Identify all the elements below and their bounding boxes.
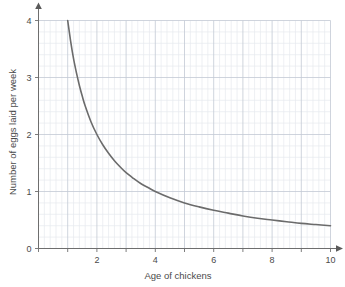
eggs-vs-age-line-chart: 246810 01234 Age of chickens Number of e…: [0, 0, 345, 287]
x-tick-label: 4: [153, 255, 158, 265]
y-axis-title: Number of eggs laid per week: [7, 69, 18, 195]
x-tick-label: 2: [94, 255, 99, 265]
x-tick-label: 8: [270, 255, 275, 265]
y-tick-label: 4: [26, 16, 31, 26]
y-tick-label: 2: [26, 130, 31, 140]
x-tick-label: 6: [211, 255, 216, 265]
y-tick-label: 3: [26, 73, 31, 83]
y-tick-label: 1: [26, 187, 31, 197]
y-tick-label: 0: [26, 244, 31, 254]
x-tick-label: 10: [325, 255, 335, 265]
chart-container: 246810 01234 Age of chickens Number of e…: [0, 0, 345, 287]
x-axis-title: Age of chickens: [144, 270, 211, 281]
